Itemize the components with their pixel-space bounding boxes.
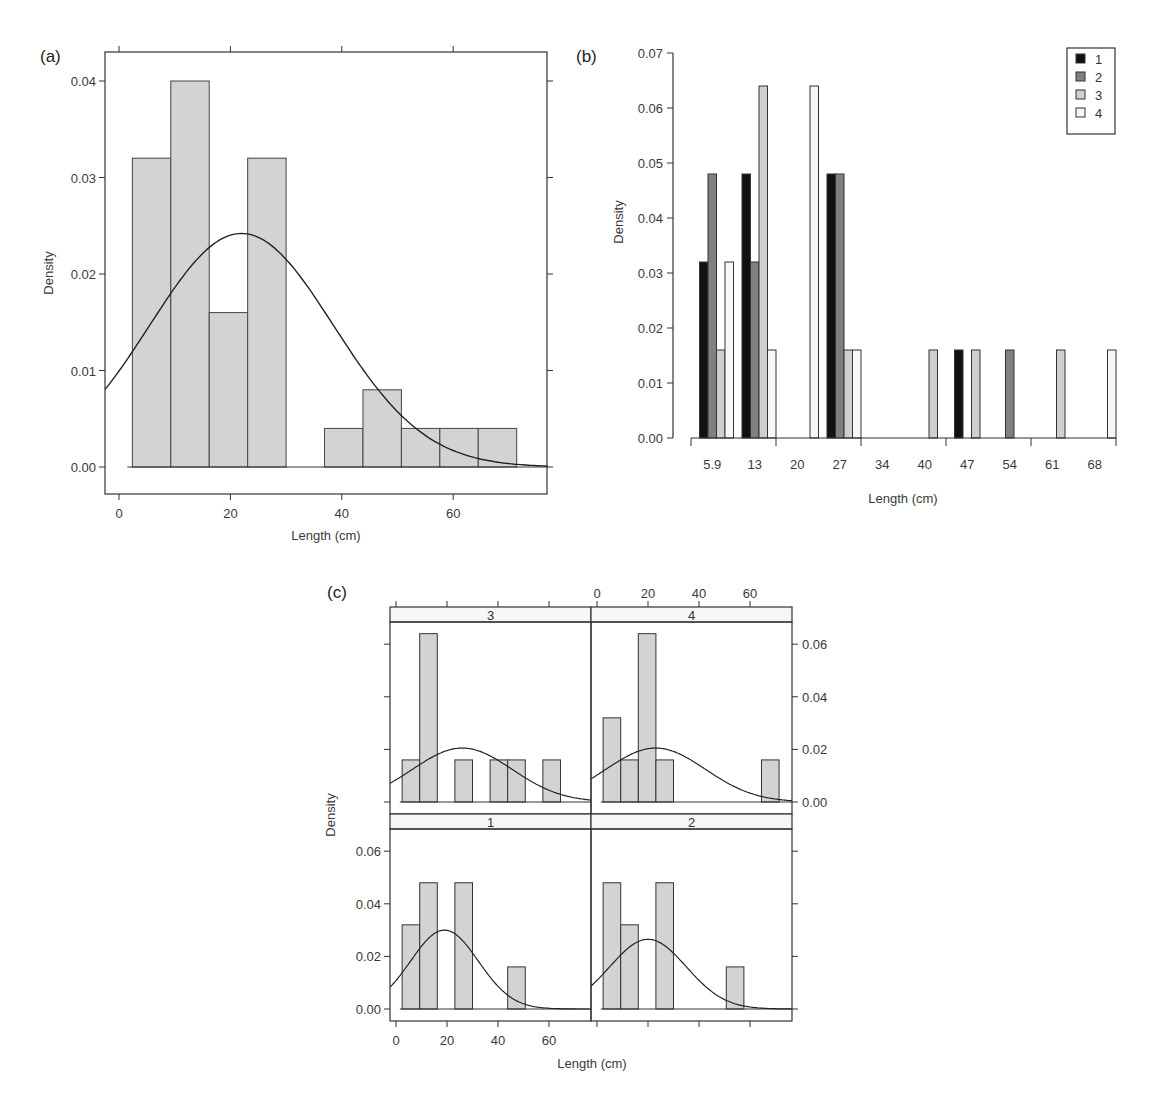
bar-series-1 (700, 262, 709, 438)
legend-swatch-4 (1076, 108, 1085, 117)
bar-series-1 (827, 174, 836, 438)
facet-strip-label: 4 (688, 608, 695, 623)
x-tick-label: 20 (223, 506, 237, 521)
y-tick-label: 0.07 (638, 46, 663, 61)
facet-plot-area (388, 883, 592, 1009)
panel-c-y-axis-title: Density (323, 793, 338, 837)
facet-plot-area (589, 634, 793, 802)
bar-series-4 (853, 350, 862, 438)
y-tick-label-right: 0.00 (802, 795, 827, 810)
y-tick-label-right: 0.06 (802, 637, 827, 652)
panel-b-bars (700, 86, 1117, 438)
histogram-bar (401, 428, 439, 467)
legend-label-2: 2 (1095, 70, 1102, 85)
legend-label-3: 3 (1095, 88, 1102, 103)
facet-4: 402040600.000.020.040.06 (589, 586, 827, 814)
facet-3: 3 (384, 601, 592, 814)
figure: (a) 02040600.000.010.020.030.04 Length (… (0, 0, 1152, 1106)
x-tick-label: 60 (446, 506, 460, 521)
x-tick-label-top: 20 (641, 586, 655, 601)
histogram-bar (455, 760, 473, 802)
y-tick-label: 0.01 (638, 376, 663, 391)
y-tick-label: 0.04 (71, 74, 96, 89)
facet-strip-label: 2 (688, 815, 695, 830)
y-tick-label: 0.03 (71, 171, 96, 186)
x-tick-label: 54 (1003, 457, 1017, 472)
bar-series-2 (836, 174, 845, 438)
histogram-bar (132, 158, 170, 467)
bar-series-4 (725, 262, 734, 438)
x-tick-label: 0 (115, 506, 122, 521)
y-tick-label: 0.04 (638, 211, 663, 226)
x-tick-label: 60 (542, 1033, 556, 1048)
legend-label-1: 1 (1095, 52, 1102, 67)
x-tick-label: 5.9 (703, 457, 721, 472)
bar-series-3 (972, 350, 981, 438)
panel-c-label: (c) (327, 583, 347, 602)
y-tick-label: 0.02 (638, 321, 663, 336)
panel-b-grouped-bars: (b) 0.000.010.020.030.040.050.060.075.91… (576, 46, 1116, 506)
bar-series-3 (929, 350, 938, 438)
histogram-bar (209, 313, 247, 467)
x-tick-label: 40 (335, 506, 349, 521)
x-tick-label: 61 (1045, 457, 1059, 472)
facet-strip-label: 3 (487, 608, 494, 623)
y-tick-label: 0.00 (71, 460, 96, 475)
panel-b-x-axis-title: Length (cm) (868, 491, 937, 506)
histogram-bar (543, 760, 561, 802)
y-tick-label: 0.04 (356, 897, 381, 912)
y-tick-label: 0.00 (356, 1002, 381, 1017)
histogram-bar (171, 81, 209, 467)
histogram-bar (621, 760, 639, 802)
histogram-bar (621, 925, 639, 1009)
panel-c-x-axis-title: Length (cm) (557, 1056, 626, 1071)
x-tick-label-top: 0 (593, 586, 600, 601)
histogram-bar (726, 967, 744, 1009)
histogram-bar (508, 967, 526, 1009)
y-tick-label: 0.06 (638, 101, 663, 116)
x-tick-label-top: 60 (743, 586, 757, 601)
histogram-bar (402, 925, 420, 1009)
panel-c-faceted-histograms: (c) 3402040600.000.020.040.06102040600.0… (323, 583, 827, 1071)
x-tick-label: 34 (875, 457, 889, 472)
histogram-bar (508, 760, 526, 802)
bar-series-3 (717, 350, 726, 438)
y-tick-label: 0.03 (638, 266, 663, 281)
facet-plot-area (388, 634, 592, 802)
x-tick-label: 13 (748, 457, 762, 472)
legend-swatch-1 (1076, 54, 1085, 63)
histogram-bar (603, 883, 621, 1009)
x-tick-label: 40 (491, 1033, 505, 1048)
y-tick-label: 0.02 (71, 267, 96, 282)
bar-series-2 (1006, 350, 1015, 438)
histogram-bar (325, 428, 363, 467)
histogram-bar (656, 760, 674, 802)
y-tick-label: 0.06 (356, 844, 381, 859)
legend-box (1067, 48, 1115, 134)
bar-series-4 (1108, 350, 1117, 438)
histogram-bar (478, 428, 516, 467)
histogram-bar (761, 760, 779, 802)
histogram-bar (638, 634, 656, 802)
bar-series-4 (768, 350, 777, 438)
histogram-bar (420, 634, 438, 802)
panel-a-label: (a) (40, 47, 61, 66)
x-tick-label: 20 (440, 1033, 454, 1048)
panel-b-y-axis-title: Density (611, 200, 626, 244)
facet-2: 2 (589, 814, 798, 1027)
histogram-bar (455, 883, 473, 1009)
histogram-bar (603, 718, 621, 802)
bar-series-3 (759, 86, 768, 438)
x-tick-label-top: 40 (692, 586, 706, 601)
panel-a-x-axis-title: Length (cm) (291, 528, 360, 543)
x-tick-label: 20 (790, 457, 804, 472)
panel-b-label: (b) (576, 47, 597, 66)
bar-series-3 (1057, 350, 1066, 438)
bar-series-1 (742, 174, 751, 438)
x-tick-label: 27 (833, 457, 847, 472)
x-tick-label: 0 (392, 1033, 399, 1048)
y-tick-label: 0.01 (71, 364, 96, 379)
y-tick-label: 0.05 (638, 156, 663, 171)
bar-series-3 (844, 350, 853, 438)
histogram-bar (248, 158, 286, 467)
